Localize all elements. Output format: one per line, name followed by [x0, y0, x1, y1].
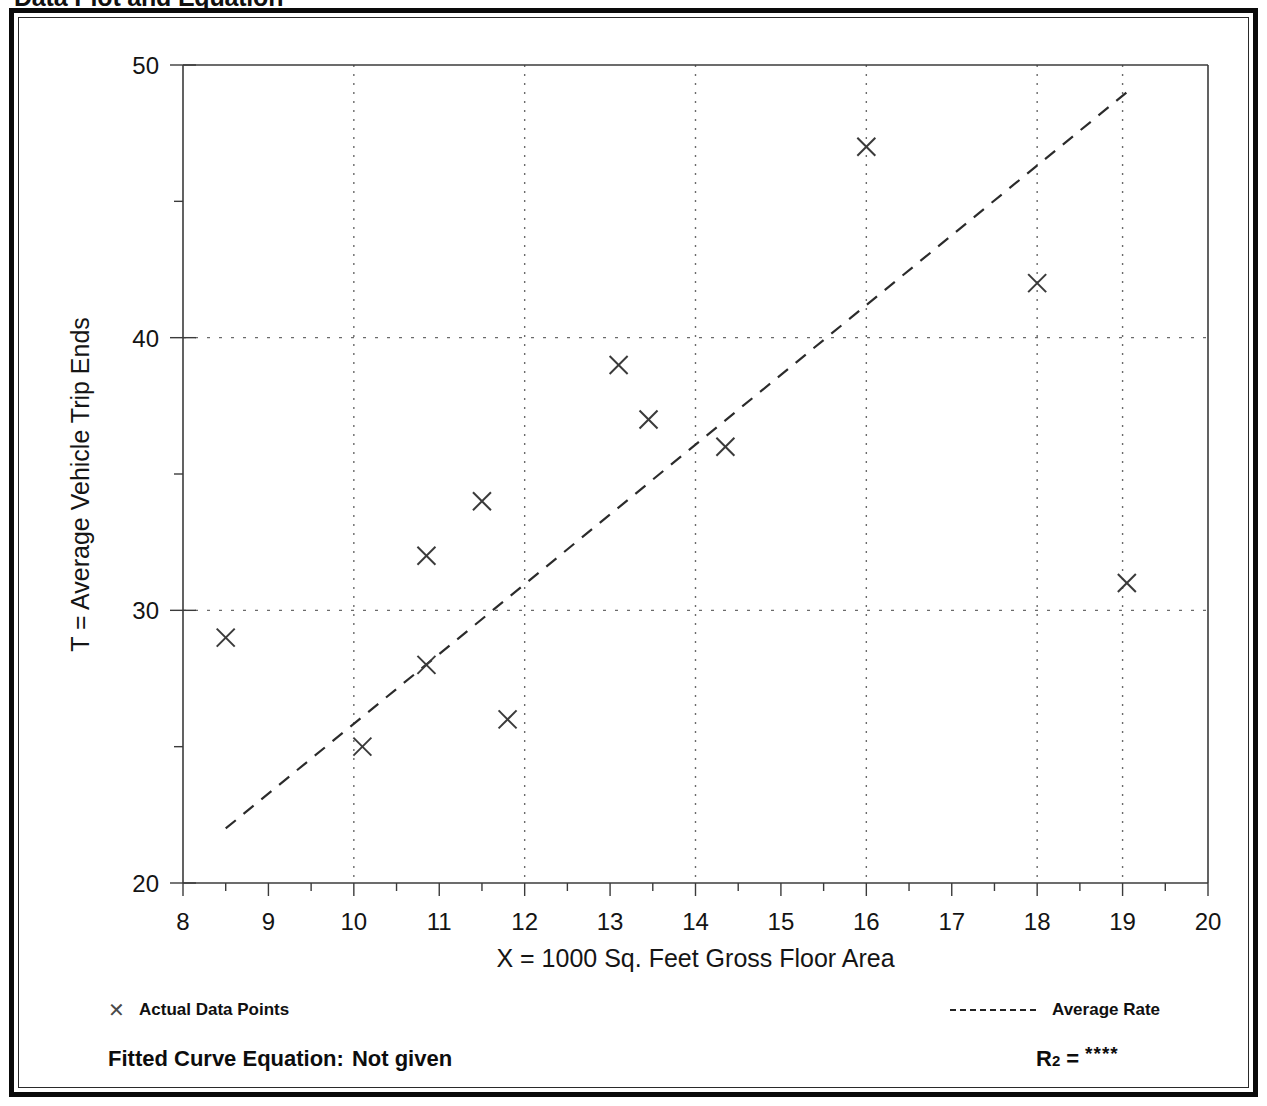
y-axis-label: T = Average Vehicle Trip Ends	[66, 275, 95, 695]
legend-label-average-rate: Average Rate	[1052, 1000, 1160, 1020]
legend-item-average-rate: Average Rate	[950, 1000, 1160, 1020]
x-tick-label: 15	[768, 908, 795, 935]
data-points-group	[217, 138, 1136, 756]
r-squared-equals: =	[1066, 1046, 1079, 1072]
page-root: Data Plot and Equation 89101112131415161…	[0, 0, 1267, 1106]
legend-label-data-points: Actual Data Points	[139, 1000, 289, 1020]
x-tick-label: 16	[853, 908, 880, 935]
x-tick-label: 19	[1109, 908, 1136, 935]
equation-label: Fitted Curve Equation:	[108, 1046, 344, 1071]
x-tick-label: 14	[682, 908, 709, 935]
x-axis-label: X = 1000 Sq. Feet Gross Floor Area	[183, 944, 1208, 973]
x-tick-label: 10	[340, 908, 367, 935]
trend-line-average-rate	[226, 92, 1127, 828]
x-tick-label: 20	[1195, 908, 1222, 935]
data-point-marker	[1118, 574, 1136, 592]
legend-item-data-points: ✕ Actual Data Points	[108, 1000, 289, 1020]
x-tick-label: 11	[427, 908, 452, 935]
y-tick-label: 30	[132, 597, 159, 624]
fitted-curve-equation: Fitted Curve Equation:Not given	[108, 1046, 452, 1072]
x-tick-label: 13	[597, 908, 624, 935]
x-tick-label: 9	[262, 908, 275, 935]
scatter-plot-svg: 89101112131415161718192020304050	[0, 0, 1267, 1106]
data-point-marker	[417, 547, 435, 565]
data-point-marker	[217, 629, 235, 647]
data-point-marker	[716, 438, 734, 456]
r-squared-readout: R2=****	[1036, 1046, 1119, 1072]
x-tick-label: 17	[938, 908, 965, 935]
x-tick-label: 8	[176, 908, 189, 935]
r-squared-exponent: 2	[1052, 1052, 1060, 1069]
data-point-marker	[1028, 274, 1046, 292]
tick-labels-group: 89101112131415161718192020304050	[132, 52, 1221, 935]
data-point-marker	[417, 656, 435, 674]
cross-marker-icon: ✕	[108, 1000, 125, 1020]
equation-value: Not given	[352, 1046, 452, 1071]
data-point-marker	[640, 410, 658, 428]
y-tick-label: 40	[132, 325, 159, 352]
data-point-marker	[499, 710, 517, 728]
data-point-marker	[353, 738, 371, 756]
gridlines-group	[183, 65, 1208, 883]
axes-group	[183, 65, 1208, 883]
r-squared-value: ****	[1085, 1043, 1119, 1065]
trend-line-group	[226, 92, 1127, 828]
plot-area: 89101112131415161718192020304050 T = Ave…	[0, 0, 1267, 1106]
data-point-marker	[857, 138, 875, 156]
y-tick-label: 50	[132, 52, 159, 79]
data-point-marker	[473, 492, 491, 510]
dashed-line-icon	[950, 1009, 1036, 1011]
data-point-marker	[610, 356, 628, 374]
x-tick-label: 18	[1024, 908, 1051, 935]
x-tick-label: 12	[511, 908, 538, 935]
r-squared-symbol: R	[1036, 1046, 1052, 1072]
y-tick-label: 20	[132, 870, 159, 897]
tick-marks-group	[170, 65, 1208, 896]
